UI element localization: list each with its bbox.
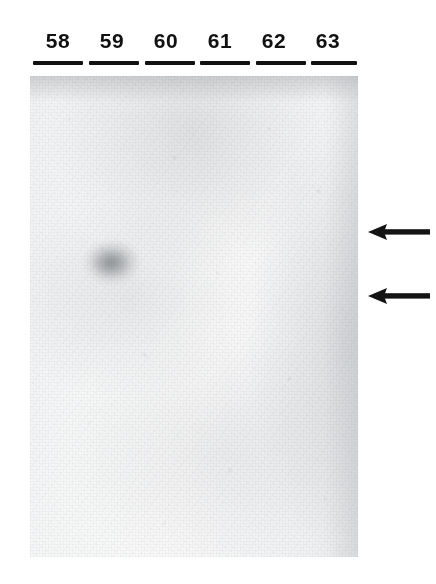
lane-label-59: 59 [92,28,132,54]
film-speckle [30,76,358,557]
lane-rule-63 [311,61,357,65]
lane-rule-59 [89,61,139,65]
film-right-shading [324,76,358,557]
lane-label-63: 63 [308,28,348,54]
lower-band-arrow [368,286,432,306]
lane-rule-62 [256,61,306,65]
blot-film [30,76,358,557]
lane-rule-60 [145,61,195,65]
blot-figure: 58 59 60 61 62 63 Autoradiograph film of… [0,0,436,584]
figure-description: Autoradiograph film of an electrophoresi… [0,0,1,1]
lane-label-61: 61 [200,28,240,54]
upper-band-arrow [368,222,432,242]
lane-label-62: 62 [254,28,294,54]
lane-rule-61 [200,61,250,65]
lane-label-60: 60 [146,28,186,54]
lane-rule-58 [33,61,83,65]
lane-label-58: 58 [38,28,78,54]
